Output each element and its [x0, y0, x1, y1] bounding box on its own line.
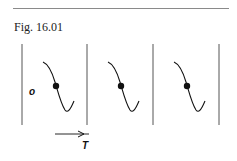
- particle-dot: [184, 83, 190, 89]
- panels: [43, 62, 205, 111]
- particle-dot: [53, 83, 59, 89]
- panel-1: [43, 62, 74, 111]
- panel-3: [174, 62, 205, 111]
- particle-dot: [118, 83, 124, 89]
- axis-label-t: T: [82, 140, 89, 151]
- panel-2: [108, 62, 139, 111]
- time-arrow: [55, 131, 89, 137]
- origin-label: o: [29, 86, 35, 97]
- figure-diagram: o T: [0, 0, 237, 161]
